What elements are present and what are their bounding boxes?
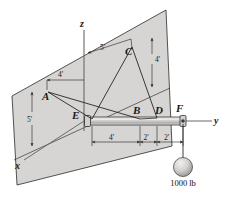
hanging-load: 1000 lb <box>170 124 196 188</box>
y-axis-label: y <box>213 115 219 126</box>
statics-figure: z y x <box>0 0 228 198</box>
point-b-label: B <box>132 104 140 116</box>
load-label: 1000 lb <box>170 178 196 188</box>
dim-d-to-f-label: 2' <box>164 133 170 142</box>
dim-cable-c-horizontal-label: 5' <box>100 43 106 52</box>
dim-b-to-d-label: 2' <box>144 133 150 142</box>
point-d-label: D <box>154 104 163 116</box>
figure-canvas: z y x <box>0 0 228 198</box>
wall-plane <box>12 10 172 185</box>
dim-cable-a-horizontal-label: 4' <box>58 70 64 79</box>
point-f-label: F <box>175 102 184 114</box>
z-axis-label: z <box>79 18 84 29</box>
x-axis-label: x <box>14 160 20 171</box>
point-e-label: E <box>71 109 79 121</box>
wall-plane-face <box>12 10 172 185</box>
load-sphere <box>174 158 193 177</box>
point-c-label: C <box>125 45 133 57</box>
dim-e-to-b-label: 4' <box>109 133 115 142</box>
dim-a-vertical-label: 5' <box>27 115 33 124</box>
bearing-f-pin <box>181 119 185 123</box>
dim-c-vertical-label: 4' <box>155 55 161 64</box>
point-a-label: A <box>41 90 49 102</box>
